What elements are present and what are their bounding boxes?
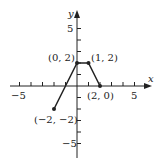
y-tick-label-5: 5: [67, 23, 73, 34]
y-tick-label-neg5: −5: [62, 138, 77, 149]
y-axis-arrow-icon: [74, 10, 80, 18]
annotation-1-2: (1, 2): [91, 52, 118, 63]
x-axis-label: x: [148, 73, 154, 84]
point-0-2: [75, 61, 79, 65]
y-axis-label: y: [67, 8, 74, 19]
x-tick-label-5: 5: [131, 90, 137, 101]
point-neg2-neg2: [52, 107, 56, 111]
x-tick-label-neg5: −5: [11, 90, 26, 101]
annotation-2-0: (2, 0): [87, 90, 114, 101]
annotation-neg2-neg2: (−2, −2): [34, 114, 78, 125]
point-1-2: [87, 61, 91, 65]
graph-figure: y x −5 5 5 −5 (−2, −2) (0, 2) (1, 2) (2,…: [0, 0, 155, 158]
point-2-0: [98, 84, 102, 88]
coordinate-plane: y x −5 5 5 −5 (−2, −2) (0, 2) (1, 2) (2,…: [0, 0, 155, 158]
annotation-0-2: (0, 2): [48, 52, 75, 63]
